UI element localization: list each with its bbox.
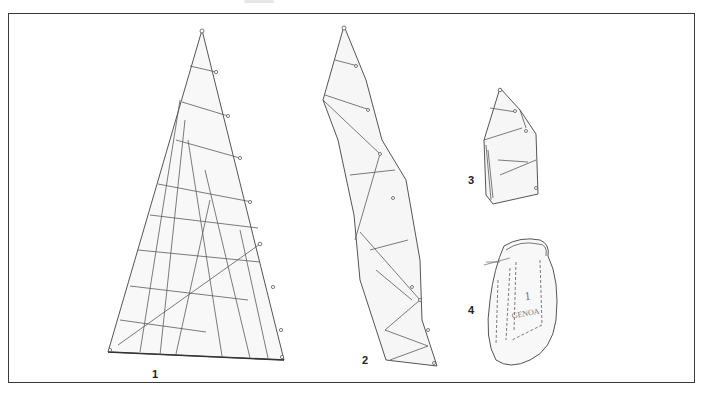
sail-flaked: [323, 26, 437, 366]
step-3-label: 3: [468, 174, 474, 186]
sail-flat: [108, 29, 284, 360]
sail-bag: [484, 239, 557, 365]
step-2-label: 2: [362, 354, 368, 366]
step-1-label: 1: [152, 368, 158, 380]
step-4-label: 4: [468, 304, 474, 316]
sail-illustration: 1 GENOA: [0, 0, 705, 400]
sail-rolled: [484, 88, 538, 204]
